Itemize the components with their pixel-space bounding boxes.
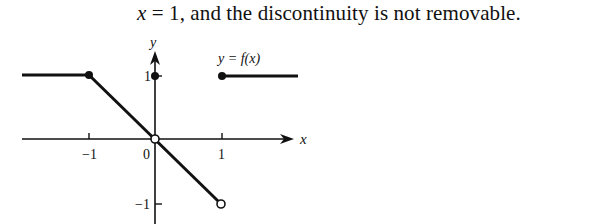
x-axis-label: x (299, 131, 307, 147)
y-tick-label-1: 1 (144, 69, 151, 84)
y-axis-label: y (148, 35, 157, 50)
x-tick-label-neg1: −1 (82, 147, 97, 162)
filled-point-1-1 (218, 72, 226, 80)
open-point-1-neg1 (217, 200, 225, 208)
x-tick-label-0: 0 (143, 147, 150, 162)
x-tick-label-1: 1 (218, 147, 225, 162)
y-tick-label-neg1: −1 (135, 197, 150, 212)
filled-point-0-1 (151, 72, 159, 80)
function-label: y = f(x) (216, 51, 260, 67)
function-curve (22, 75, 298, 201)
open-point-origin (151, 135, 159, 143)
filled-point-neg1-1 (85, 71, 93, 79)
function-graph: x y y = f(x) −1 0 1 1 −1 (0, 0, 603, 224)
